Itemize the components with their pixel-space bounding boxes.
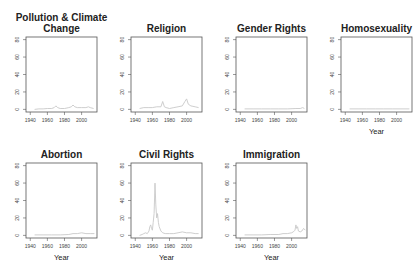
y-tick-label: 80 (224, 37, 230, 43)
y-tick-label: 20 (119, 89, 125, 95)
x-axis-label: Year (264, 253, 280, 262)
data-series-line (35, 105, 94, 109)
panel-title: Pollution & Climate (16, 12, 108, 23)
y-tick-label: 0 (119, 234, 125, 237)
y-tick-label: 80 (224, 163, 230, 169)
panel-homosexuality: Homosexuality0204060801940196019802000Ye… (329, 23, 412, 136)
x-tick-label: 1980 (269, 117, 280, 123)
x-tick-label: 1940 (130, 117, 141, 123)
plot-frame (131, 163, 202, 238)
y-tick-label: 20 (329, 89, 335, 95)
data-series-line (245, 225, 306, 235)
panel-title: Homosexuality (341, 23, 413, 34)
plot-frame (236, 37, 307, 112)
y-tick-label: 0 (119, 108, 125, 111)
y-tick-label: 40 (224, 198, 230, 204)
x-tick-label: 1960 (42, 243, 53, 249)
x-tick-label: 1960 (42, 117, 53, 123)
y-tick-label: 40 (14, 72, 20, 78)
small-multiples-figure: Pollution & ClimateChange020406080194019… (0, 0, 416, 277)
panel-religion: Religion0204060801940196019802000 (119, 23, 202, 123)
x-tick-label: 2000 (181, 117, 192, 123)
x-tick-label: 1940 (235, 117, 246, 123)
y-tick-label: 0 (14, 108, 20, 111)
x-tick-label: 1980 (164, 117, 175, 123)
y-tick-label: 20 (224, 215, 230, 221)
y-tick-label: 60 (14, 180, 20, 186)
panel-abortion: Abortion0204060801940196019802000Year (14, 149, 97, 262)
panel-pollution-climate-change: Pollution & ClimateChange020406080194019… (14, 12, 107, 123)
data-series-line (140, 99, 199, 109)
data-series-line (35, 233, 95, 235)
panel-title: Gender Rights (237, 23, 306, 34)
y-tick-label: 60 (224, 54, 230, 60)
y-tick-label: 20 (224, 89, 230, 95)
data-series-line (245, 108, 305, 109)
panel-title: Religion (147, 23, 186, 34)
x-axis-label: Year (159, 253, 175, 262)
y-tick-label: 60 (224, 180, 230, 186)
x-tick-label: 1940 (130, 243, 141, 249)
panel-gender-rights: Gender Rights0204060801940196019802000 (224, 23, 307, 123)
x-tick-label: 1960 (252, 117, 263, 123)
data-series-line (140, 183, 199, 235)
y-tick-label: 40 (14, 198, 20, 204)
y-tick-label: 80 (14, 163, 20, 169)
y-tick-label: 40 (119, 198, 125, 204)
y-tick-label: 0 (329, 108, 335, 111)
x-tick-label: 1960 (147, 243, 158, 249)
y-tick-label: 80 (329, 37, 335, 43)
x-tick-label: 1980 (59, 243, 70, 249)
x-tick-label: 1960 (357, 117, 368, 123)
x-tick-label: 2000 (76, 117, 87, 123)
x-axis-label: Year (369, 127, 385, 136)
y-tick-label: 60 (14, 54, 20, 60)
y-tick-label: 80 (119, 163, 125, 169)
y-tick-label: 40 (224, 72, 230, 78)
panel-civil-rights: Civil Rights0204060801940196019802000Yea… (119, 149, 202, 262)
plot-frame (26, 37, 97, 112)
y-tick-label: 60 (329, 54, 335, 60)
y-tick-label: 20 (119, 215, 125, 221)
x-tick-label: 1980 (59, 117, 70, 123)
plot-frame (26, 163, 97, 238)
x-tick-label: 1980 (269, 243, 280, 249)
y-tick-label: 20 (14, 89, 20, 95)
x-tick-label: 1940 (340, 117, 351, 123)
x-axis-label: Year (54, 253, 70, 262)
y-tick-label: 80 (14, 37, 20, 43)
y-tick-label: 20 (14, 215, 20, 221)
y-tick-label: 0 (224, 108, 230, 111)
y-tick-label: 40 (119, 72, 125, 78)
x-tick-label: 1940 (25, 243, 36, 249)
x-tick-label: 1960 (252, 243, 263, 249)
plot-frame (131, 37, 202, 112)
plot-frame (341, 37, 412, 112)
y-tick-label: 40 (329, 72, 335, 78)
y-tick-label: 0 (224, 234, 230, 237)
panel-title: Abortion (41, 149, 83, 160)
y-tick-label: 60 (119, 180, 125, 186)
x-tick-label: 2000 (286, 243, 297, 249)
x-tick-label: 2000 (181, 243, 192, 249)
x-tick-label: 1940 (25, 117, 36, 123)
x-tick-label: 1940 (235, 243, 246, 249)
panel-title: Immigration (243, 149, 300, 160)
panel-title: Civil Rights (139, 149, 194, 160)
y-tick-label: 60 (119, 54, 125, 60)
x-tick-label: 1980 (164, 243, 175, 249)
x-tick-label: 2000 (286, 117, 297, 123)
x-tick-label: 1960 (147, 117, 158, 123)
x-tick-label: 2000 (76, 243, 87, 249)
x-tick-label: 1980 (374, 117, 385, 123)
x-tick-label: 2000 (391, 117, 402, 123)
y-tick-label: 0 (14, 234, 20, 237)
y-tick-label: 80 (119, 37, 125, 43)
panel-immigration: Immigration0204060801940196019802000Year (224, 149, 307, 262)
panel-title: Change (43, 23, 80, 34)
